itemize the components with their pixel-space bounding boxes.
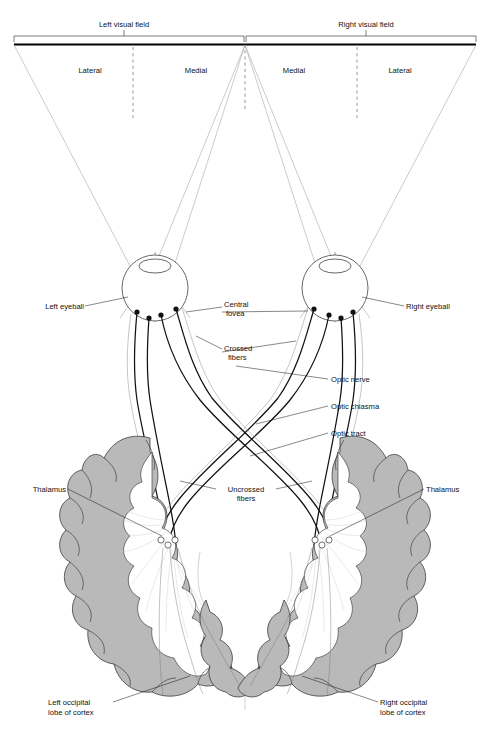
right-eyeball <box>302 255 368 321</box>
label-crossed-fibers-2: fibers <box>228 353 247 362</box>
visual-ray-lines <box>14 45 476 318</box>
label-uncrossed-fibers-1: Uncrossed <box>228 485 264 494</box>
field-divider-dashes <box>133 44 357 118</box>
label-central-fovea-1: Central <box>224 300 249 309</box>
visual-pathway-figure: Left visual field Right visual field Lat… <box>0 0 490 745</box>
visual-field-bracket <box>14 30 476 42</box>
label-optic-chiasma: Optic chiasma <box>331 402 380 411</box>
label-right-lateral: Lateral <box>388 66 412 75</box>
label-right-occipital-2: lobe of cortex <box>380 708 426 717</box>
label-left-occipital-2: lobe of cortex <box>48 708 94 717</box>
label-thalamus-left: Thalamus <box>33 485 67 494</box>
label-thalamus-right: Thalamus <box>426 485 460 494</box>
brain-section <box>60 436 431 710</box>
label-left-occipital-1: Left occipital <box>48 698 91 707</box>
label-left-lateral: Lateral <box>78 66 102 75</box>
label-right-medial: Medial <box>283 66 306 75</box>
label-right-occipital-1: Right occipital <box>380 698 428 707</box>
label-left-medial: Medial <box>185 66 208 75</box>
label-left-visual-field: Left visual field <box>99 20 149 29</box>
left-eyeball <box>122 255 188 321</box>
label-crossed-fibers-1: Crossed <box>224 344 252 353</box>
label-optic-tract: Optic tract <box>331 429 366 438</box>
label-left-eyeball: Left eyeball <box>45 302 84 311</box>
label-right-visual-field: Right visual field <box>338 20 393 29</box>
label-uncrossed-fibers-2: fibers <box>237 494 256 503</box>
label-right-eyeball: Right eyeball <box>406 302 450 311</box>
label-optic-nerve: Optic nerve <box>331 375 370 384</box>
label-central-fovea-2: fovea <box>226 309 245 318</box>
